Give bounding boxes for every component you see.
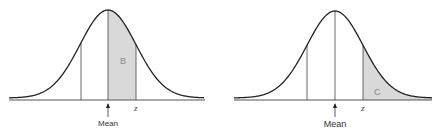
left-shaded-area-b [108, 10, 136, 100]
left-normal-curve-diagram: B z Mean [9, 10, 205, 128]
left-area-label: B [120, 56, 126, 66]
left-bell-curve [9, 10, 204, 98]
right-normal-curve-diagram: C z Mean [234, 11, 432, 129]
right-area-label: C [374, 87, 381, 97]
right-bell-curve [234, 11, 432, 98]
right-mean-arrow-icon [333, 103, 337, 117]
normal-curves-figure: B z Mean C z Mean [0, 0, 434, 132]
left-z-label: z [133, 103, 138, 113]
right-z-label: z [360, 103, 365, 113]
left-mean-label: Mean [98, 119, 118, 128]
left-mean-arrow-icon [106, 103, 110, 117]
right-mean-label: Mean [324, 119, 347, 129]
